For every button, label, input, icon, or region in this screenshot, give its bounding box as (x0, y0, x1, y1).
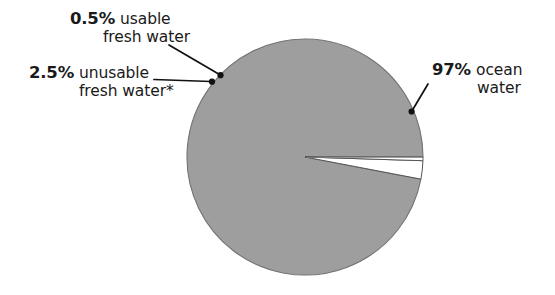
callout-text-usable-line2: fresh water (70, 29, 190, 47)
callout-text-ocean-line2: water (432, 80, 522, 98)
callout-percent-unusable: 2.5% (29, 63, 74, 82)
leader-dot-usable (217, 72, 223, 78)
callout-label-usable-fresh-water: 0.5% usable fresh water (70, 10, 190, 46)
leader-ocean-water (409, 84, 429, 115)
callout-text-ocean-line1: ocean (476, 61, 522, 79)
callout-label-ocean-water: 97% ocean water (432, 61, 522, 97)
leader-usable-fresh-water (169, 45, 224, 78)
callout-percent-usable: 0.5% (70, 9, 115, 28)
callout-percent-ocean: 97% (432, 60, 471, 79)
callout-text-unusable-line2: fresh water* (29, 83, 174, 101)
pie-chart-figure: 0.5% usable fresh water 2.5% unusable fr… (0, 0, 555, 295)
callout-label-unusable-fresh-water: 2.5% unusable fresh water* (29, 64, 174, 100)
leader-line-ocean (413, 84, 429, 110)
leader-line-usable (169, 45, 220, 75)
leader-dot-unusable (209, 79, 215, 85)
callout-text-unusable-line1: unusable (79, 64, 149, 82)
callout-text-usable-line1: usable (120, 10, 170, 28)
leader-dot-ocean (409, 108, 415, 114)
